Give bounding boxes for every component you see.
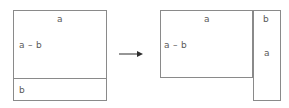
label-a-top-left: a: [57, 14, 63, 24]
arrow-shaft: [119, 54, 138, 55]
label-a-minus-b-left: a – b: [19, 40, 42, 50]
transformation-arrow: [119, 49, 143, 59]
label-b-strip-top: b: [263, 14, 269, 24]
diagram-canvas: a a – b b a a – b b a: [0, 0, 289, 108]
arrow-head-icon: [137, 51, 143, 57]
label-a-minus-b-right: a – b: [164, 40, 187, 50]
label-b-bottom-left: b: [19, 85, 25, 95]
original-square-divider-line: [13, 78, 107, 79]
label-a-top-right: a: [204, 14, 210, 24]
label-a-strip-side: a: [264, 48, 270, 58]
